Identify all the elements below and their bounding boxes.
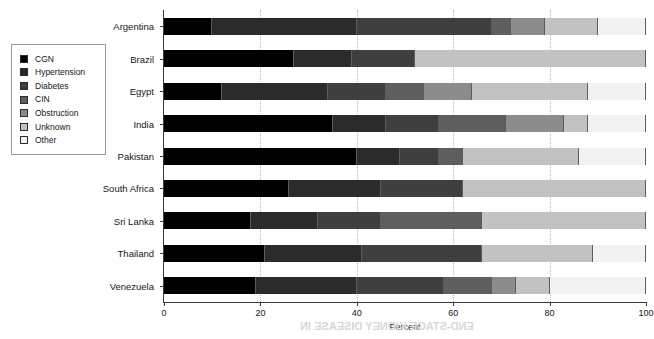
y-axis-category-text: Pakistan [118, 151, 154, 162]
bar-segment-cgn [164, 18, 212, 35]
bar-segment-diabetes [328, 83, 386, 100]
legend-item-label: Diabetes [35, 82, 69, 91]
legend-swatch-icon [20, 109, 28, 117]
legend-item-cin: CIN [20, 93, 99, 107]
bar-segment-unknown [482, 212, 646, 229]
bar-row: Pakistan [164, 148, 646, 165]
bar-segment-diabetes [381, 180, 463, 197]
stacked-bar [164, 18, 646, 35]
x-tick-label: 20 [255, 308, 265, 318]
bar-segment-unknown [545, 18, 598, 35]
legend-swatch-icon [20, 55, 28, 63]
legend-item-other: Other [20, 134, 99, 148]
bar-segment-cgn [164, 212, 251, 229]
page-bleed-through: END-STAGE KIDNEY DISEASE IN [0, 318, 653, 339]
legend-item-cgn: CGN [20, 52, 99, 66]
legend-item-diabetes: Diabetes [20, 79, 99, 93]
bar-segment-cin [386, 83, 425, 100]
bar-row: Argentina [164, 18, 646, 35]
stacked-bar [164, 148, 646, 165]
x-tick [646, 302, 647, 306]
x-tick-label: 80 [545, 308, 555, 318]
bar-segment-hypertension [251, 212, 318, 229]
bar-segment-cgn [164, 50, 294, 67]
bar-segment-cgn [164, 277, 256, 294]
chart-legend: CGNHypertensionDiabetesCINObstructionUnk… [11, 44, 106, 155]
bar-segment-unknown [463, 180, 646, 197]
bar-segment-other [598, 18, 646, 35]
stacked-bar [164, 83, 646, 100]
bar-segment-unknown [415, 50, 646, 67]
bar-segment-obstruction [492, 277, 516, 294]
x-tick [453, 302, 454, 306]
bar-segment-cgn [164, 83, 222, 100]
bar-segment-obstruction [506, 115, 564, 132]
stacked-bar [164, 277, 646, 294]
legend-item-obstruction: Obstruction [20, 106, 99, 120]
bar-segment-other [588, 115, 646, 132]
bar-segment-diabetes [352, 50, 415, 67]
bleed-text: END-STAGE KIDNEY DISEASE IN [300, 320, 474, 332]
bar-segment-hypertension [357, 148, 400, 165]
x-axis-label: Percent [389, 322, 420, 332]
stacked-bar [164, 180, 646, 197]
bar-segment-hypertension [222, 83, 328, 100]
y-axis-category-text: Thailand [118, 248, 154, 259]
y-axis-category-text: Venezuela [110, 280, 154, 291]
x-tick-label: 40 [352, 308, 362, 318]
x-tick [550, 302, 551, 306]
bar-row: South Africa [164, 180, 646, 197]
bar-segment-other [593, 245, 646, 262]
bar-row: Thailand [164, 245, 646, 262]
stacked-bar [164, 50, 646, 67]
bar-segment-diabetes [400, 148, 439, 165]
stacked-bar [164, 212, 646, 229]
legend-item-label: CIN [35, 95, 50, 104]
bar-segment-diabetes [362, 245, 483, 262]
bar-segment-unknown [564, 115, 588, 132]
legend-swatch-icon [20, 68, 28, 76]
bar-segment-hypertension [212, 18, 357, 35]
bar-segment-unknown [482, 245, 593, 262]
bar-segment-cin [381, 212, 482, 229]
bar-row: India [164, 115, 646, 132]
bar-segment-obstruction [511, 18, 545, 35]
bar-segment-cin [439, 115, 506, 132]
bar-segment-diabetes [357, 277, 444, 294]
stacked-bar [164, 245, 646, 262]
legend-swatch-icon [20, 82, 28, 90]
y-axis-category-text: Argentina [113, 21, 154, 32]
bar-segment-cgn [164, 115, 333, 132]
bar-segment-unknown [463, 148, 579, 165]
bar-row: Egypt [164, 83, 646, 100]
bar-segment-other [588, 83, 646, 100]
bar-segment-cin [444, 277, 492, 294]
bar-segment-other [579, 148, 646, 165]
x-tick [260, 302, 261, 306]
x-tick-label: 100 [638, 308, 653, 318]
bar-segment-unknown [472, 83, 588, 100]
bar-segment-hypertension [265, 245, 361, 262]
bar-segment-cin [439, 148, 463, 165]
legend-item-label: Other [35, 136, 56, 145]
x-axis-line [163, 302, 647, 303]
y-axis-category-text: Sri Lanka [114, 215, 154, 226]
bar-segment-hypertension [333, 115, 386, 132]
bar-segment-unknown [516, 277, 550, 294]
y-axis-category-text: Brazil [130, 53, 154, 64]
legend-item-label: Obstruction [35, 109, 78, 118]
y-axis-category-text: India [133, 118, 154, 129]
plot-area: ArgentinaBrazilEgyptIndiaPakistanSouth A… [164, 10, 646, 302]
bar-segment-cgn [164, 148, 357, 165]
legend-swatch-icon [20, 123, 28, 131]
bar-segment-obstruction [424, 83, 472, 100]
legend-item-label: Hypertension [35, 68, 85, 77]
bar-segment-cgn [164, 245, 265, 262]
legend-item-label: CGN [35, 55, 54, 64]
x-tick-label: 0 [161, 308, 166, 318]
bar-segment-hypertension [294, 50, 352, 67]
legend-item-label: Unknown [35, 123, 70, 132]
legend-swatch-icon [20, 96, 28, 104]
x-tick-label: 60 [448, 308, 458, 318]
